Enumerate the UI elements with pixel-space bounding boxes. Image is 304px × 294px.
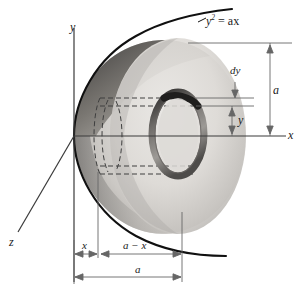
curve-equation-label: y2 = ax — [206, 14, 239, 27]
equation-exponent: 2 — [211, 13, 215, 22]
equation-leader-line — [198, 18, 206, 22]
z-axis-label: z — [9, 236, 14, 248]
arrowhead-a-top — [267, 45, 273, 53]
x-dimension-label: x — [82, 240, 87, 251]
ring-hole — [158, 98, 198, 170]
arrowhead-x-left — [75, 251, 83, 257]
arrowhead-amx-left — [101, 251, 109, 257]
dy-label: dy — [230, 65, 240, 76]
ring-element — [152, 92, 204, 176]
y-dimension-label: y — [238, 114, 243, 126]
y-axis-label: y — [70, 21, 75, 33]
arrowhead-abot-right — [173, 274, 181, 280]
figure-paraboloid-shell: y2 = ax y x z dy a y x a − x a — [0, 0, 304, 294]
arrowhead-x-right — [89, 251, 97, 257]
a-dimension-label: a — [135, 264, 141, 275]
arrowhead-abot-left — [75, 274, 83, 280]
x-axis-label: x — [288, 129, 293, 141]
z-axis — [18, 136, 74, 232]
figure-canvas — [0, 0, 304, 294]
a-vertical-label: a — [273, 84, 279, 96]
arrowhead-a-bottom — [267, 126, 273, 134]
equation-rest: = ax — [218, 14, 239, 28]
a-minus-x-dimension-label: a − x — [123, 240, 146, 251]
